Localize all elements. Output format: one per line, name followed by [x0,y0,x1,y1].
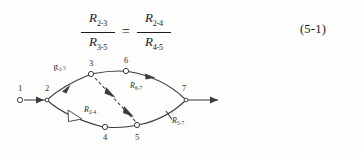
arrowhead-output-icon [210,97,218,104]
resistance-symbol: R [89,34,97,49]
arrowhead-dashed-end-icon [123,106,134,117]
svg-text:R2-3: R2-3 [51,61,67,74]
arrowhead-dashed-mid-icon [105,87,116,98]
node-label-2: 2 [45,83,49,93]
node-5[interactable] [134,122,139,127]
node-label-7: 7 [182,83,186,93]
arrowhead-1-2-icon [36,97,44,104]
resistance-subscript: 2-3 [97,19,107,28]
resistance-subscript: 3-5 [97,42,107,51]
right-fraction-numerator: R2-4 [142,10,166,31]
node-label-3: 3 [89,58,93,68]
node-3[interactable] [88,71,93,76]
resistance-symbol: R [145,34,153,49]
node-7[interactable] [184,98,188,102]
equation-number: (5-1) [300,22,326,37]
svg-text:R5-7: R5-7 [171,116,184,126]
edge-label-6-7: R6-7 [129,81,142,91]
node-label-5: 5 [135,132,139,142]
edge-label-subscript: 5-7 [177,120,184,126]
equals-sign: = [122,24,130,41]
resistance-symbol: R [89,10,97,25]
resistance-subscript: 4-5 [153,42,163,51]
equation-5-1: R2-3 R3-5 = R2-4 R4-5 [78,10,174,54]
edge-3-6 [94,71,124,74]
node-6[interactable] [123,68,128,73]
svg-text:R6-7: R6-7 [129,81,142,91]
node-2[interactable] [45,98,49,102]
node-label-1: 1 [18,83,22,93]
arrowhead-2-4-open-icon [68,110,82,122]
resistance-symbol: R [145,10,153,25]
edge-label-subscript: 2-3 [58,64,67,72]
figure-page: R2-3 R3-5 = R2-4 R4-5 (5-1) [0,0,361,153]
fraction-bar [137,32,171,33]
edge-label-subscript: 6-7 [135,85,142,91]
left-fraction-denominator: R3-5 [86,34,110,55]
node-label-4: 4 [103,132,108,142]
edge-label-2-3: R2-3 [51,61,67,74]
edge-label-5-7: R5-7 [171,116,184,126]
node-1[interactable] [17,97,22,102]
svg-text:R2-4: R2-4 [83,105,96,115]
resistance-subscript: 2-4 [153,19,163,28]
edge-label-2-4: R2-4 [83,105,96,115]
left-fraction-numerator: R2-3 [86,10,110,31]
node-4[interactable] [102,124,107,129]
right-fraction-denominator: R4-5 [142,34,166,55]
fraction-bar [81,32,115,33]
edge-label-subscript: 2-4 [89,109,96,115]
network-diagram: 1 2 3 4 5 6 7 R2-3 R2-4 R6-7 [0,55,361,153]
edge-4-5 [108,126,134,128]
node-label-6: 6 [124,55,128,65]
left-fraction: R2-3 R3-5 [81,10,115,54]
right-fraction: R2-4 R4-5 [137,10,171,54]
